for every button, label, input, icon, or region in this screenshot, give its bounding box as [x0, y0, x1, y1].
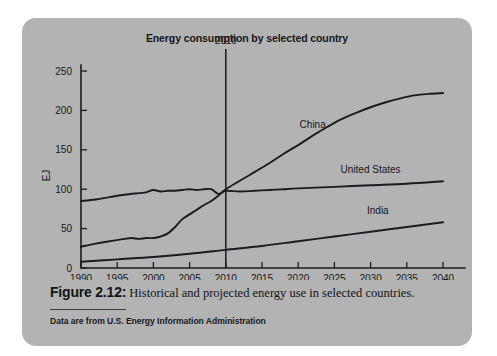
x-tick-label: 2005: [178, 273, 201, 280]
x-tick-label: 2040: [432, 273, 455, 280]
x-tick-label: 2000: [142, 273, 165, 280]
x-tick-label: 2035: [396, 273, 419, 280]
series-line-india: [81, 222, 443, 261]
x-tick-label: 2010: [215, 273, 238, 280]
y-tick-label: 250: [55, 66, 72, 77]
figure-caption: Figure 2.12: Historical and projected en…: [50, 284, 450, 301]
x-tick-label: 1990: [70, 273, 93, 280]
x-tick-label: 2025: [323, 273, 346, 280]
axis-lines: [81, 65, 465, 268]
source-divider: [50, 309, 126, 310]
figure-caption-label: Figure 2.12:: [50, 284, 126, 300]
y-axis-title: EJ: [41, 170, 52, 182]
y-tick-label: 0: [66, 263, 72, 274]
chart-area: Energy consumption by selected country 0…: [22, 18, 472, 280]
x-tick-label: 2030: [359, 273, 382, 280]
x-tick-label: 1995: [106, 273, 129, 280]
projection-divider-label: 2010: [215, 35, 238, 46]
figure-panel: Energy consumption by selected country 0…: [22, 18, 472, 346]
series-line-united-states: [81, 181, 443, 201]
figure-caption-text: Historical and projected energy use in s…: [129, 286, 414, 300]
y-tick-label: 200: [55, 105, 72, 116]
source-note: Data are from U.S. Energy Information Ad…: [50, 316, 450, 326]
y-tick-label: 150: [55, 144, 72, 155]
x-tick-label: 2020: [287, 273, 310, 280]
y-tick-label: 50: [61, 223, 73, 234]
series-label-india: India: [367, 205, 389, 216]
line-chart: 0501001502002501990199520002005201020152…: [22, 18, 472, 280]
series-label-china: China: [300, 119, 327, 130]
y-tick-label: 100: [55, 184, 72, 195]
caption-block: Figure 2.12: Historical and projected en…: [50, 284, 450, 326]
series-label-united-states: United States: [341, 164, 401, 175]
x-tick-label: 2015: [251, 273, 274, 280]
